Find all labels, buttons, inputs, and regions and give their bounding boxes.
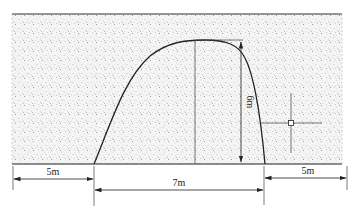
right-clearance-label: 5m: [302, 165, 315, 176]
span-dimension: 7m: [95, 177, 263, 190]
height-label: 6m: [245, 96, 256, 109]
right-clearance-dimension: 5m: [265, 165, 346, 178]
left-clearance-dimension: 5m: [14, 166, 93, 179]
tunnel-section-diagram: 6m 5m 7m 5m: [0, 0, 354, 216]
left-clearance-label: 5m: [47, 166, 60, 177]
span-label: 7m: [173, 177, 186, 188]
soil-mass: [12, 14, 342, 164]
